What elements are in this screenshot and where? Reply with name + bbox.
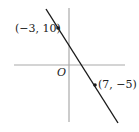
point-marker-2 xyxy=(93,83,97,87)
origin-label: O xyxy=(57,66,66,79)
point-label-2: (7, −5) xyxy=(98,78,137,91)
coordinate-diagram: (−3, 10) (7, −5) O xyxy=(0,0,139,132)
point-label-1: (−3, 10) xyxy=(15,22,61,35)
